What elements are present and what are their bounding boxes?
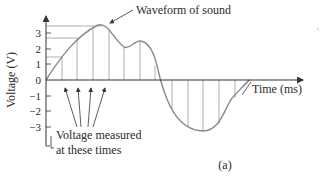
sample-arrows xyxy=(65,88,105,127)
waveform-diagram: 3 2 1 0 −1 −2 −3 Voltage (V) Time (ms) W… xyxy=(0,0,321,179)
waveform-annotation: Waveform of sound xyxy=(136,3,231,17)
y-tick-2: 2 xyxy=(36,43,42,55)
samples-annotation-line2: at these times xyxy=(56,143,122,157)
x-label-leader xyxy=(242,82,251,95)
y-tick-neg1: −1 xyxy=(29,90,41,102)
x-axis-label: Time (ms) xyxy=(252,82,302,96)
stray-mark xyxy=(317,28,318,29)
sample-bracket xyxy=(51,136,54,148)
figure-caption: (a) xyxy=(218,158,231,172)
y-tick-3: 3 xyxy=(36,27,42,39)
y-tick-neg3: −3 xyxy=(29,121,41,133)
waveform-pointer xyxy=(110,10,133,23)
y-tick-0: 0 xyxy=(36,74,42,86)
y-axis-label: Voltage (V) xyxy=(4,52,18,108)
sample-lines xyxy=(62,27,235,131)
y-ticks xyxy=(46,33,51,146)
y-tick-neg2: −2 xyxy=(29,105,41,117)
y-tick-1: 1 xyxy=(36,58,42,70)
samples-annotation-line1: Voltage measured xyxy=(56,128,141,142)
reference-lines xyxy=(46,26,102,57)
